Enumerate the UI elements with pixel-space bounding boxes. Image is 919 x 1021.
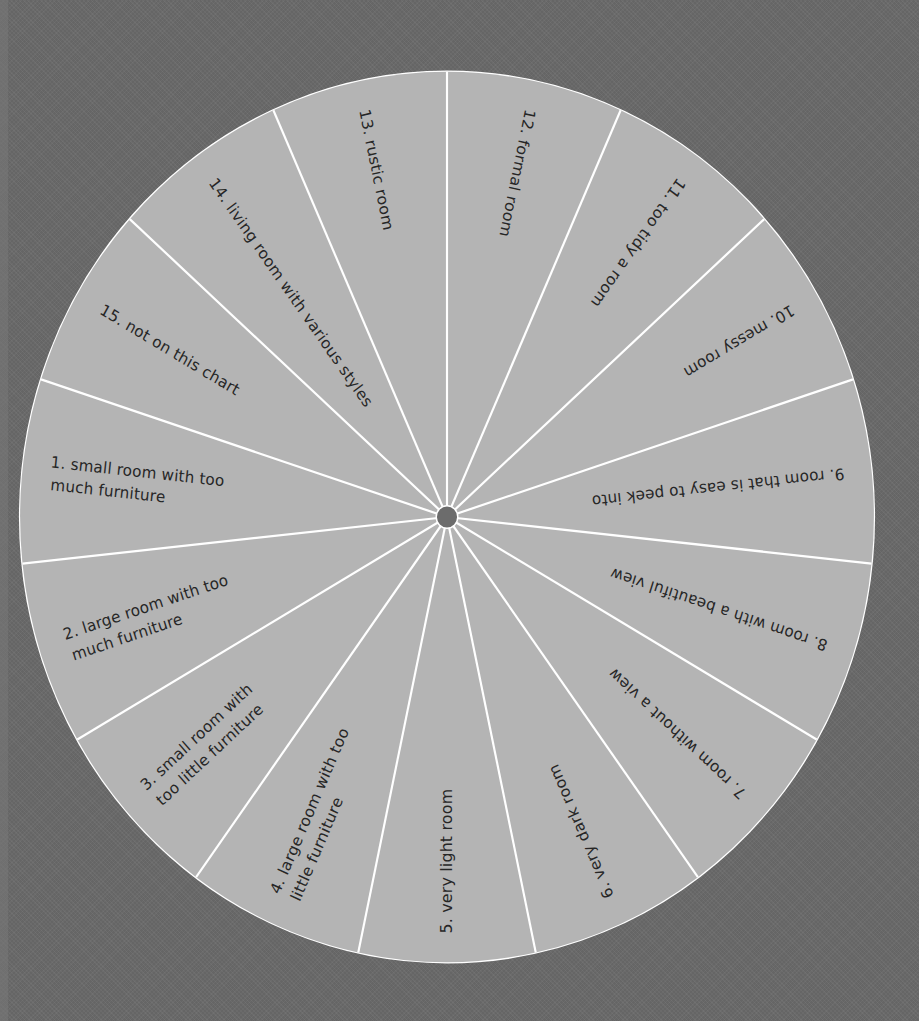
segment-label-5: 5. very light room (438, 789, 456, 934)
room-type-wheel-chart: 12. formal room11. too tidy a room10. me… (0, 0, 919, 1021)
segment-label-line: 5. very light room (438, 789, 456, 934)
wheel-hub (436, 506, 458, 528)
